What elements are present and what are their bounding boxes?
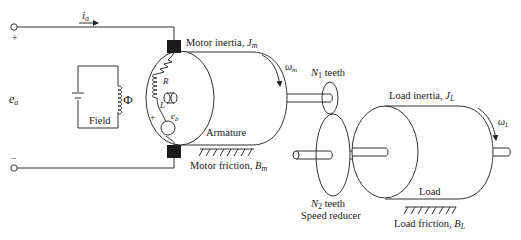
load-speed-label: ωL [498,116,509,129]
gear-n1 [322,82,338,114]
resistance-label: R [162,76,169,86]
field-coil-icon [118,86,122,114]
gear-n1-label: N1 teeth [310,67,346,80]
motor-friction-label: Motor friction, Bm [190,160,267,173]
speed-reducer-label: Speed reducer [301,210,361,221]
motor-inertia-label: Motor inertia, Jm [186,37,258,50]
armature-label: Armature [206,127,247,138]
inductance-label: L [159,100,165,110]
load-shaft [493,148,510,156]
load-friction-hatch-icon [404,207,456,214]
plus-sign: + [12,32,18,43]
positive-terminal [11,24,17,30]
voltage-label: ea [9,92,18,107]
load-label: Load [419,186,441,197]
load-inertia-label: Load inertia, JL [389,90,455,103]
current-label: ia [82,9,89,23]
motor-speed-label: ωm [285,61,297,74]
negative-terminal [11,165,17,171]
top-brush [167,40,181,53]
motor-rotation-arrow-icon [262,55,280,86]
gear-n2 [316,114,350,196]
back-emf-plus: + [150,112,155,122]
flux-symbol: Φ [123,92,133,107]
load-friction-label: Load friction, BL [394,218,466,231]
minus-sign: − [11,153,17,164]
field-label: Field [89,115,111,126]
bottom-brush [167,145,181,158]
motor-load-diagram: Φ ia + ea − Field R L eb + Armature Moto… [0,0,521,240]
motor-friction-hatch-icon [199,149,254,156]
